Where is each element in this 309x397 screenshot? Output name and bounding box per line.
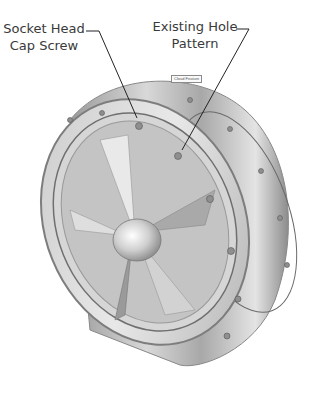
callout-line-1: Socket Head <box>2 20 86 37</box>
hub-spinner <box>113 219 161 261</box>
callout-existing-hole-pattern: Existing Hole Pattern <box>152 18 238 52</box>
ducted-fan-diagram <box>0 0 309 397</box>
callout-line-2: Pattern <box>152 35 238 52</box>
callout-line-2: Cap Screw <box>2 37 86 54</box>
callout-line-1: Existing Hole <box>152 18 238 35</box>
feature-tag: Cloud Feature <box>171 75 202 83</box>
callout-socket-head-cap-screw: Socket Head Cap Screw <box>2 20 86 54</box>
